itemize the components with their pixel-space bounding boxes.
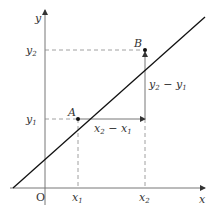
main-line bbox=[13, 17, 205, 188]
point-a bbox=[76, 117, 80, 121]
dy-label: y2 − y1 bbox=[148, 78, 187, 92]
y-axis-label: y bbox=[34, 12, 42, 25]
dx-label: x2 − x1 bbox=[94, 122, 132, 136]
y2-label: y2 bbox=[25, 44, 37, 58]
x2-label: x2 bbox=[139, 191, 150, 205]
point-b bbox=[143, 48, 147, 52]
point-a-label: A bbox=[67, 106, 76, 119]
slope-diagram: y x O A B y2 y1 x1 x2 x2 − x1 y2 − y1 bbox=[0, 0, 221, 218]
origin-label: O bbox=[36, 191, 45, 204]
x1-label: x1 bbox=[72, 191, 83, 205]
x-axis-label: x bbox=[199, 193, 206, 206]
y1-label: y1 bbox=[25, 113, 37, 127]
point-b-label: B bbox=[133, 37, 142, 50]
